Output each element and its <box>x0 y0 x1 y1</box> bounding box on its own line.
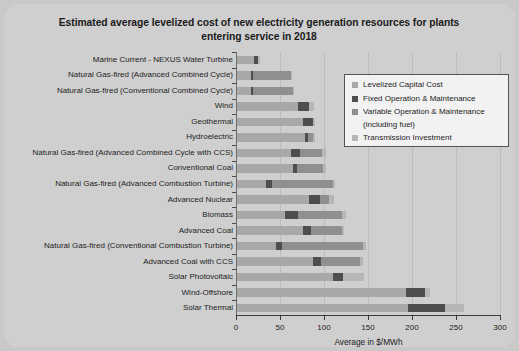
chart-panel: Estimated average levelized cost of new … <box>4 4 515 347</box>
y-axis-tick <box>232 238 236 239</box>
x-axis-tick <box>412 315 413 320</box>
legend-swatch-icon <box>352 109 358 115</box>
bar-segment[interactable] <box>303 118 314 127</box>
bar-stack[interactable] <box>236 226 500 235</box>
y-axis-tick <box>232 254 236 255</box>
bar-segment[interactable] <box>333 273 344 282</box>
y-axis-tick <box>232 300 236 301</box>
bar-stack[interactable] <box>236 211 500 220</box>
y-axis-tick <box>232 68 236 69</box>
bar-segment[interactable] <box>323 164 326 173</box>
bar-segment[interactable] <box>236 102 298 111</box>
bar-segment[interactable] <box>363 242 367 251</box>
y-axis-tick <box>232 145 236 146</box>
bar-segment[interactable] <box>291 149 300 158</box>
bar-segment[interactable] <box>291 71 292 80</box>
bar-stack[interactable] <box>236 195 500 204</box>
bar-segment[interactable] <box>236 133 305 142</box>
bar-segment[interactable] <box>408 304 445 313</box>
bar-segment[interactable] <box>236 288 406 297</box>
bar-segment[interactable] <box>303 226 311 235</box>
bar-segment[interactable] <box>236 211 285 220</box>
bar-stack[interactable] <box>236 288 500 297</box>
bar-segment[interactable] <box>425 288 430 297</box>
bar-stack[interactable] <box>236 273 500 282</box>
legend-item[interactable]: Levelized Capital Cost <box>352 80 502 90</box>
legend-label: Levelized Capital Cost <box>363 80 443 90</box>
bar-segment[interactable] <box>321 257 360 266</box>
bar-stack[interactable] <box>236 56 500 65</box>
bar-segment[interactable] <box>236 118 303 127</box>
bar-segment[interactable] <box>329 195 333 204</box>
bar-segment[interactable] <box>333 180 336 189</box>
bar-segment[interactable] <box>282 242 363 251</box>
bar-stack[interactable] <box>236 149 500 158</box>
x-axis-tick-label: 0 <box>234 323 238 332</box>
bar-segment[interactable] <box>313 118 315 127</box>
bar-segment[interactable] <box>236 56 254 65</box>
y-axis-tick <box>232 83 236 84</box>
bar-segment[interactable] <box>342 211 346 220</box>
bar-segment[interactable] <box>236 164 293 173</box>
bar-segment[interactable] <box>298 102 309 111</box>
bar-segment[interactable] <box>236 226 303 235</box>
legend-item[interactable]: Transmission Investment <box>352 133 502 143</box>
y-axis-tick <box>232 99 236 100</box>
y-axis-tick <box>232 114 236 115</box>
bar-segment[interactable] <box>236 242 276 251</box>
bar-segment[interactable] <box>311 226 342 235</box>
legend-swatch-icon <box>352 82 358 88</box>
y-axis-tick <box>232 176 236 177</box>
bar-segment[interactable] <box>343 273 363 282</box>
bar-segment[interactable] <box>309 195 320 204</box>
bar-segment[interactable] <box>236 149 291 158</box>
bar-segment[interactable] <box>253 87 293 96</box>
bar-segment[interactable] <box>236 304 408 313</box>
bar-segment[interactable] <box>322 149 326 158</box>
legend-label: Transmission Investment <box>363 133 452 143</box>
bar-segment[interactable] <box>236 195 309 204</box>
legend-label: Variable Operation & Maintenance <box>363 107 485 117</box>
legend-item[interactable]: Fixed Operation & Maintenance <box>352 94 502 104</box>
bar-segment[interactable] <box>300 149 322 158</box>
bar-segment[interactable] <box>445 304 464 313</box>
chart-legend: Levelized Capital Cost Fixed Operation &… <box>344 74 509 147</box>
bar-segment[interactable] <box>236 71 251 80</box>
y-axis-tick <box>232 269 236 270</box>
bar-stack[interactable] <box>236 257 500 266</box>
bar-segment[interactable] <box>236 87 251 96</box>
bar-segment[interactable] <box>360 257 363 266</box>
category-label: Natural Gas-fired (Conventional Combined… <box>57 86 233 96</box>
bar-segment[interactable] <box>272 180 333 189</box>
bar-stack[interactable] <box>236 164 500 173</box>
bar-segment[interactable] <box>320 195 330 204</box>
bar-stack[interactable] <box>236 242 500 251</box>
legend-swatch-icon <box>352 135 358 141</box>
chart-title: Estimated average levelized cost of new … <box>44 16 474 43</box>
bar-segment[interactable] <box>309 102 314 111</box>
bar-segment[interactable] <box>236 273 333 282</box>
bar-segment[interactable] <box>236 180 266 189</box>
bar-segment[interactable] <box>285 211 297 220</box>
bar-segment[interactable] <box>293 87 294 96</box>
y-axis-tick <box>232 223 236 224</box>
legend-item[interactable]: Variable Operation & Maintenance <box>352 107 502 117</box>
bar-segment[interactable] <box>297 164 323 173</box>
bar-segment[interactable] <box>258 56 260 65</box>
bar-segment[interactable] <box>253 71 292 80</box>
bar-stack[interactable] <box>236 180 500 189</box>
bar-segment[interactable] <box>313 133 315 142</box>
category-label: Solar Thermal <box>183 303 233 313</box>
bar-segment[interactable] <box>236 257 313 266</box>
category-label: Natural Gas-fired (Advanced Combustion T… <box>55 179 233 189</box>
category-label: Natural Gas-fired (Conventional Combusti… <box>44 241 233 251</box>
bar-segment[interactable] <box>298 211 342 220</box>
bar-segment[interactable] <box>342 226 345 235</box>
x-axis-tick <box>280 315 281 320</box>
category-label: Advanced Coal <box>179 226 233 236</box>
bar-segment[interactable] <box>406 288 425 297</box>
x-axis-tick <box>236 315 237 320</box>
bar-segment[interactable] <box>313 257 321 266</box>
x-axis-tick-label: 300 <box>493 323 506 332</box>
bar-stack[interactable] <box>236 304 500 313</box>
